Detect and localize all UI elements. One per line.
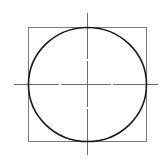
geometry-drawing (0, 0, 167, 165)
